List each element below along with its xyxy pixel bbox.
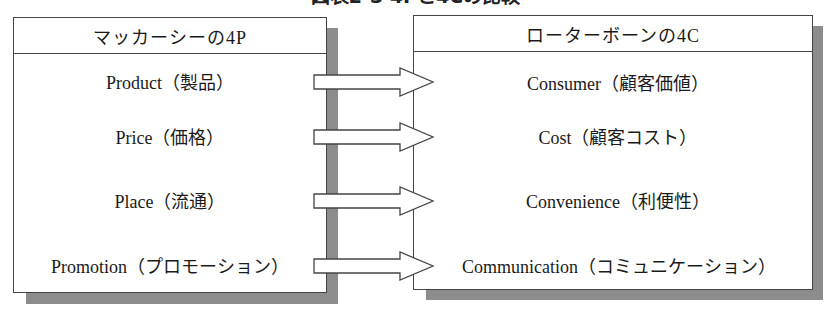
item-consumer: Consumer（顧客価値） bbox=[414, 73, 812, 95]
right-arrow-icon bbox=[313, 67, 435, 97]
item-convenience: Convenience（利便性） bbox=[414, 191, 812, 213]
item-cost: Cost（顧客コスト） bbox=[414, 127, 812, 149]
right-box-shadow-bottom bbox=[426, 289, 823, 300]
item-promotion: Promotion（プロモーション） bbox=[14, 256, 326, 278]
item-communication: Communication（コミュニケーション） bbox=[414, 256, 812, 278]
right-box-shadow bbox=[812, 26, 823, 300]
mccarthy-4p-box: マッカーシーの4P Product（製品） Price（価格） Place（流通… bbox=[13, 17, 327, 293]
right-arrow-icon bbox=[313, 186, 435, 216]
item-place: Place（流通） bbox=[14, 191, 326, 213]
lauterborn-4c-header: ローターボーンの4C bbox=[414, 16, 812, 52]
left-box-shadow-bottom bbox=[26, 292, 338, 304]
right-arrow-icon bbox=[313, 251, 435, 281]
item-product: Product（製品） bbox=[14, 72, 326, 94]
right-arrow-icon bbox=[313, 122, 435, 152]
item-price: Price（価格） bbox=[14, 127, 326, 149]
lauterborn-4c-box: ローターボーンの4C Consumer（顧客価値） Cost（顧客コスト） Co… bbox=[413, 15, 813, 290]
mccarthy-4p-header: マッカーシーの4P bbox=[14, 18, 326, 54]
figure-title: 図表2-3 4Pと4Cの比較 bbox=[0, 0, 831, 6]
